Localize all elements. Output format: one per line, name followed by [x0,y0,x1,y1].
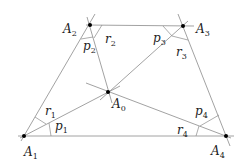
label-a4: A4 [210,144,225,160]
point-a4 [224,134,228,138]
quadrilateral-diagram: A0 A1 A2 A3 A4 p1 r1 p2 r2 p3 r3 p4 r4 [0,0,247,163]
point-a0 [106,90,110,94]
angle-marker-p1 [49,123,51,136]
angle-marker-p3 [163,26,172,36]
label-a2: A2 [62,22,77,38]
label-a0: A0 [111,97,126,113]
label-p1: p1 [55,119,68,135]
label-a1: A1 [23,145,38,161]
label-p3: p3 [153,31,166,47]
point-a3 [181,24,185,28]
label-r4: r4 [177,123,188,139]
label-r3: r3 [176,45,187,61]
label-a3: A3 [195,22,210,38]
angle-marker-r3 [172,36,188,40]
vertex-labels: A0 A1 A2 A3 A4 [23,22,225,161]
spoke-a0-a1 [20,86,120,138]
label-p4: p4 [195,104,208,120]
point-a1 [22,134,26,138]
angle-marker-r2 [94,25,102,38]
angle-marker-r1 [35,117,46,124]
label-r1: r1 [45,104,56,120]
spoke-a0-a3 [100,21,188,100]
angle-marker-r4 [196,126,199,136]
label-r2: r2 [105,32,116,48]
angle-labels: p1 r1 p2 r2 p3 r3 p4 r4 [45,31,208,139]
point-a2 [88,23,92,27]
